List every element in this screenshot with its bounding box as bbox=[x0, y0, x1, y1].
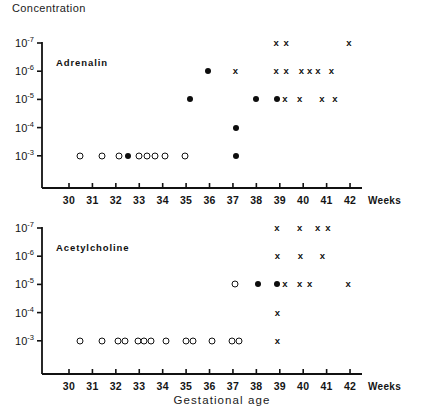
x-tick-label: 42 bbox=[338, 194, 362, 206]
y-tick-base: 10 bbox=[15, 278, 27, 290]
y-tick-label: 10-7 bbox=[15, 35, 34, 49]
x-tick-label: 39 bbox=[268, 380, 292, 392]
y-tick-base: 10 bbox=[15, 306, 27, 318]
data-point-cross: x bbox=[307, 66, 312, 76]
panel-adrenalin-weeks-label: Weeks bbox=[368, 195, 401, 206]
data-point-filled-circle bbox=[253, 96, 259, 102]
y-tick-label: 10-5 bbox=[15, 91, 34, 105]
data-point-open-circle bbox=[116, 152, 123, 159]
data-point-open-circle bbox=[151, 152, 158, 159]
data-point-cross: x bbox=[275, 336, 280, 346]
figure-root: Concentration Adrenalin xxxxxxxxxxxxxx 1… bbox=[0, 0, 444, 418]
x-tick-label: 32 bbox=[104, 380, 128, 392]
panel-adrenalin: Adrenalin xxxxxxxxxxxxxx 10-710-610-510-… bbox=[0, 22, 444, 194]
x-tick-label: 33 bbox=[127, 380, 151, 392]
x-tick-label: 42 bbox=[338, 380, 362, 392]
data-point-filled-circle bbox=[274, 281, 280, 287]
data-point-open-circle bbox=[162, 152, 169, 159]
y-tick-base: 10 bbox=[15, 37, 27, 49]
data-point-cross: x bbox=[282, 280, 287, 290]
series-label-adrenalin: Adrenalin bbox=[56, 57, 108, 68]
x-tick-label: 33 bbox=[127, 194, 151, 206]
x-tick-label: 35 bbox=[174, 194, 198, 206]
x-tick-label: 38 bbox=[244, 380, 268, 392]
y-tick-label: 10-4 bbox=[15, 305, 34, 319]
data-point-cross: x bbox=[274, 38, 279, 48]
x-tick-label: 32 bbox=[104, 194, 128, 206]
data-point-open-circle bbox=[189, 337, 196, 344]
panel-acetylcholine: Acetylcholine xxxxxxxxxxxxx 10-710-610-5… bbox=[0, 206, 444, 394]
data-point-cross: x bbox=[307, 280, 312, 290]
data-point-filled-circle bbox=[233, 125, 239, 131]
data-point-cross: x bbox=[332, 95, 337, 105]
data-point-cross: x bbox=[283, 66, 288, 76]
data-point-open-circle bbox=[76, 152, 83, 159]
x-tick-label: 34 bbox=[151, 194, 175, 206]
data-point-cross: x bbox=[315, 223, 320, 233]
x-tick-label: 40 bbox=[291, 194, 315, 206]
y-tick-base: 10 bbox=[15, 250, 27, 262]
y-tick-exponent: -6 bbox=[27, 63, 34, 72]
x-tick-label: 41 bbox=[315, 380, 339, 392]
data-point-cross: x bbox=[346, 280, 351, 290]
data-point-cross: x bbox=[274, 223, 279, 233]
x-tick-label: 31 bbox=[80, 380, 104, 392]
data-point-cross: x bbox=[315, 66, 320, 76]
data-point-cross: x bbox=[329, 66, 334, 76]
x-tick-label: 39 bbox=[268, 194, 292, 206]
data-point-open-circle bbox=[76, 337, 83, 344]
y-tick-base: 10 bbox=[15, 93, 27, 105]
data-point-cross: x bbox=[298, 251, 303, 261]
panel-acetylcholine-axes bbox=[0, 206, 444, 394]
data-point-open-circle bbox=[231, 281, 238, 288]
x-tick-label: 41 bbox=[315, 194, 339, 206]
x-tick-label: 37 bbox=[221, 194, 245, 206]
y-tick-label: 10-7 bbox=[15, 220, 34, 234]
data-point-open-circle bbox=[147, 337, 154, 344]
y-tick-base: 10 bbox=[15, 65, 27, 77]
y-tick-exponent: -3 bbox=[27, 148, 34, 157]
data-point-open-circle bbox=[122, 337, 129, 344]
y-tick-label: 10-3 bbox=[15, 148, 34, 162]
data-point-open-circle bbox=[99, 152, 106, 159]
y-tick-label: 10-5 bbox=[15, 276, 34, 290]
x-tick-label: 34 bbox=[151, 380, 175, 392]
x-tick-label: 38 bbox=[244, 194, 268, 206]
data-point-open-circle bbox=[98, 337, 105, 344]
panel-adrenalin-axes bbox=[0, 22, 444, 194]
y-tick-exponent: -3 bbox=[27, 333, 34, 342]
data-point-cross: x bbox=[297, 223, 302, 233]
x-tick-label: 30 bbox=[57, 194, 81, 206]
data-point-filled-circle bbox=[187, 96, 193, 102]
data-point-filled-circle bbox=[233, 153, 239, 159]
data-point-open-circle bbox=[228, 337, 235, 344]
data-point-cross: x bbox=[275, 308, 280, 318]
data-point-cross: x bbox=[297, 280, 302, 290]
y-tick-exponent: -4 bbox=[27, 120, 34, 129]
x-tick-label: 35 bbox=[174, 380, 198, 392]
data-point-cross: x bbox=[275, 251, 280, 261]
x-axis-title: Gestational age bbox=[0, 394, 444, 406]
data-point-filled-circle bbox=[274, 96, 280, 102]
data-point-open-circle bbox=[163, 337, 170, 344]
y-tick-label: 10-3 bbox=[15, 333, 34, 347]
x-tick-label: 36 bbox=[198, 380, 222, 392]
y-tick-label: 10-6 bbox=[15, 248, 34, 262]
data-point-filled-circle bbox=[255, 281, 261, 287]
y-tick-exponent: -4 bbox=[27, 305, 34, 314]
data-point-cross: x bbox=[283, 38, 288, 48]
series-label-acetylcholine: Acetylcholine bbox=[56, 242, 129, 253]
y-tick-base: 10 bbox=[15, 149, 27, 161]
y-tick-label: 10-6 bbox=[15, 63, 34, 77]
y-tick-exponent: -5 bbox=[27, 276, 34, 285]
y-tick-base: 10 bbox=[15, 222, 27, 234]
y-tick-exponent: -6 bbox=[27, 248, 34, 257]
x-tick-label: 37 bbox=[221, 380, 245, 392]
x-tick-label: 36 bbox=[198, 194, 222, 206]
data-point-cross: x bbox=[319, 95, 324, 105]
data-point-cross: x bbox=[320, 251, 325, 261]
y-axis-title: Concentration bbox=[12, 2, 86, 14]
y-tick-base: 10 bbox=[15, 121, 27, 133]
data-point-filled-circle bbox=[125, 153, 131, 159]
data-point-open-circle bbox=[144, 152, 151, 159]
